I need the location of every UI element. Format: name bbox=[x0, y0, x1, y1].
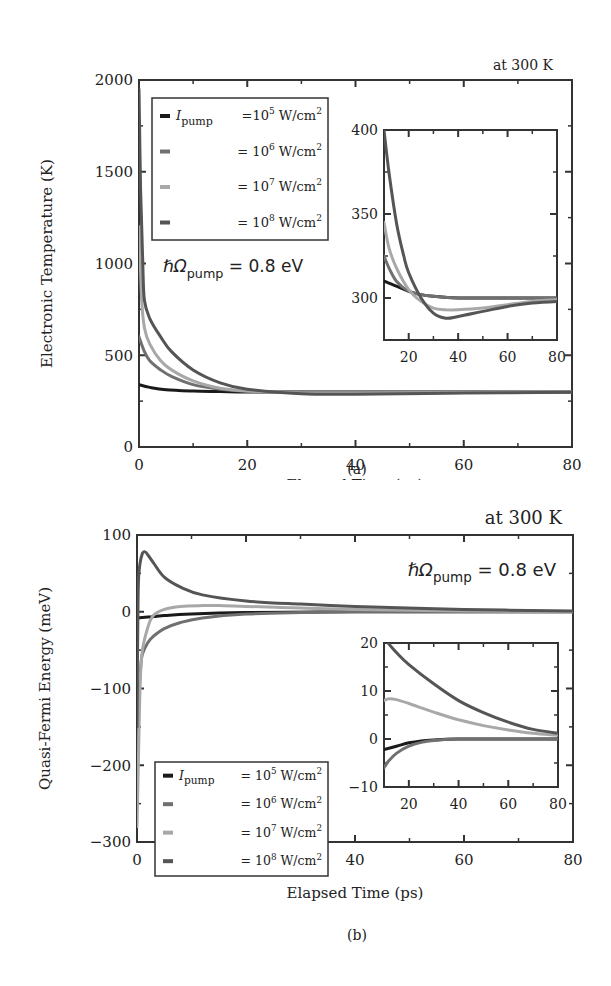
chart-a-legend-label: = 107 W/cm2 bbox=[237, 177, 322, 194]
chart-a-inset-xtick-label: 60 bbox=[499, 349, 517, 365]
chart-b-inset-ytick-label: 0 bbox=[369, 731, 378, 747]
chart-a-legend-label: = 108 W/cm2 bbox=[237, 213, 322, 230]
chart-a-legend-label: =105 W/cm2 bbox=[241, 106, 322, 123]
chart-a-ytick-label: 1000 bbox=[95, 255, 133, 273]
chart-b-legend-label: = 108 W/cm2 bbox=[241, 852, 322, 869]
chart-a-ytick-label: 1500 bbox=[95, 163, 133, 181]
chart-b-xlabel: Elapsed Time (ps) bbox=[287, 884, 424, 902]
chart-b-ytick-label: 0 bbox=[121, 603, 131, 621]
chart-b-legend-label: = 105 W/cm2 bbox=[241, 766, 322, 783]
chart-b-inset-xtick-label: 20 bbox=[400, 796, 418, 812]
chart-a-inset-ytick-label: 300 bbox=[351, 290, 378, 306]
chart-b-ytick-label: −200 bbox=[90, 757, 131, 775]
chart-a-inset-ytick-label: 350 bbox=[351, 206, 378, 222]
chart-b-xtick-label: 0 bbox=[132, 851, 142, 869]
chart-b-legend-label: = 106 W/cm2 bbox=[241, 795, 322, 812]
chart-b-inset-xtick-label: 40 bbox=[450, 796, 468, 812]
figure-b: 020406080−300−200−1000100at 300 KℏΩpump … bbox=[0, 480, 611, 986]
chart-a-ytick-label: 0 bbox=[123, 438, 133, 456]
chart-b-svg: 020406080−300−200−1000100at 300 KℏΩpump … bbox=[0, 480, 611, 986]
chart-a-svg: 0204060800500100015002000at 300 KIpump=1… bbox=[0, 0, 611, 480]
chart-b-corner-note: at 300 K bbox=[485, 507, 563, 528]
chart-b-xtick-label: 60 bbox=[454, 851, 473, 869]
chart-a-inset-xtick-label: 20 bbox=[400, 349, 418, 365]
chart-a-inset-ytick-label: 400 bbox=[351, 122, 378, 138]
chart-a-corner-note: at 300 K bbox=[493, 57, 554, 73]
chart-a-xtick-label: 80 bbox=[562, 456, 581, 474]
chart-b-xtick-label: 80 bbox=[563, 851, 582, 869]
figure-a: 0204060800500100015002000at 300 KIpump=1… bbox=[0, 0, 611, 480]
chart-a-legend-label: = 106 W/cm2 bbox=[237, 142, 322, 159]
chart-b-ytick-label: −100 bbox=[90, 680, 131, 698]
chart-a-ytick-label: 500 bbox=[104, 347, 133, 365]
chart-b-ytick-label: −300 bbox=[90, 833, 131, 851]
chart-b-inset-xtick-label: 80 bbox=[549, 796, 567, 812]
chart-b-xtick-label: 40 bbox=[345, 851, 364, 869]
chart-a-xtick-label: 0 bbox=[134, 456, 144, 474]
chart-a-ytick-label: 2000 bbox=[95, 71, 133, 89]
chart-b-inset-ytick-label: 20 bbox=[360, 635, 378, 651]
chart-a-inset-xtick-label: 80 bbox=[548, 349, 566, 365]
chart-a-xtick-label: 20 bbox=[238, 456, 257, 474]
chart-b-inset-ytick-label: −10 bbox=[348, 779, 378, 795]
chart-b-ylabel: Quasi-Fermi Energy (meV) bbox=[36, 587, 54, 790]
chart-a-panel-label: (a) bbox=[347, 461, 366, 477]
chart-a-ylabel: Electronic Temperature (K) bbox=[38, 159, 56, 368]
chart-a-xtick-label: 60 bbox=[454, 456, 473, 474]
chart-b-inset-xtick-label: 60 bbox=[499, 796, 517, 812]
chart-b-inset-ytick-label: 10 bbox=[360, 683, 378, 699]
chart-a-inset-xtick-label: 40 bbox=[449, 349, 467, 365]
chart-b-legend-label: = 107 W/cm2 bbox=[241, 823, 322, 840]
chart-b-ytick-label: 100 bbox=[102, 526, 131, 544]
chart-b-panel-label: (b) bbox=[347, 927, 367, 943]
